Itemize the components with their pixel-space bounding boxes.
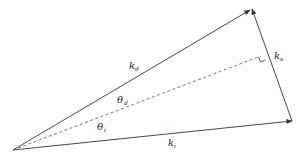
vector-diagram: k d θ d θ i k i k s xyxy=(0,0,302,162)
label-theta-i: θ i xyxy=(97,121,106,133)
right-angle-marker xyxy=(259,57,266,62)
svg-text:θ: θ xyxy=(97,121,103,132)
svg-text:i: i xyxy=(104,126,106,133)
svg-text:d: d xyxy=(135,65,139,72)
label-k-s: k s xyxy=(274,50,283,62)
svg-text:d: d xyxy=(124,99,128,106)
svg-text:θ: θ xyxy=(117,94,123,105)
label-theta-d: θ d xyxy=(117,94,128,106)
svg-text:i: i xyxy=(174,142,176,149)
label-k-i: k i xyxy=(168,137,176,149)
vector-k-s xyxy=(252,9,292,121)
label-k-d: k d xyxy=(129,60,139,72)
svg-text:s: s xyxy=(280,55,283,62)
